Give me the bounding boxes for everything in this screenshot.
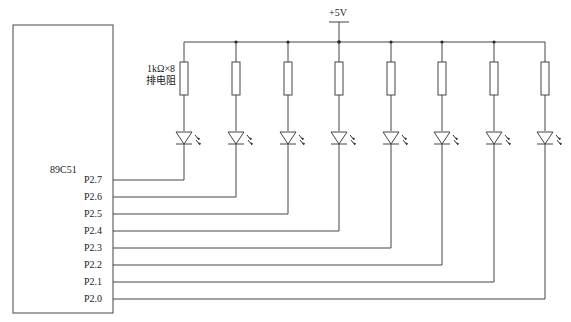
resistor-type-label: 排电阻 [146, 74, 176, 86]
led-icon [537, 132, 562, 145]
resistor-r1 [180, 62, 188, 95]
pin-label-p2-2: P2.2 [84, 259, 102, 270]
resistor-value-label: 1kΩ×8 [147, 63, 175, 74]
pin-label-p2-4: P2.4 [84, 225, 102, 236]
pin-label-p2-5: P2.5 [84, 208, 102, 219]
resistor-r5 [387, 62, 395, 95]
branch-3 [113, 42, 305, 214]
pin-label-p2-0: P2.0 [84, 293, 102, 304]
led-icon [383, 132, 408, 145]
led-icon [486, 132, 511, 145]
led-icon [280, 132, 305, 145]
schematic-svg: 89C51 P2.7 P2.6 P2.5 P2.4 P2.3 P2.2 P2.1… [0, 0, 571, 322]
resistor-r7 [490, 62, 498, 95]
resistor-r6 [438, 62, 446, 95]
supply-label: +5V [329, 7, 348, 18]
led-icon [176, 132, 201, 145]
circuit-diagram: 89C51 P2.7 P2.6 P2.5 P2.4 P2.3 P2.2 P2.1… [0, 0, 571, 322]
resistor-r4 [335, 62, 343, 95]
resistor-r8 [541, 62, 549, 95]
led-icon [228, 132, 253, 145]
vcc-bus [184, 42, 545, 62]
chip-label: 89C51 [50, 164, 77, 175]
pin-label-p2-1: P2.1 [84, 276, 102, 287]
pin-label-p2-6: P2.6 [84, 191, 102, 202]
resistor-r3 [284, 62, 292, 95]
pin-labels: P2.7 P2.6 P2.5 P2.4 P2.3 P2.2 P2.1 P2.0 [84, 174, 102, 304]
resistor-r2 [232, 62, 240, 95]
led-icon [331, 132, 356, 145]
pin-label-p2-3: P2.3 [84, 242, 102, 253]
led-icon [434, 132, 459, 145]
pin-label-p2-7: P2.7 [84, 174, 102, 185]
